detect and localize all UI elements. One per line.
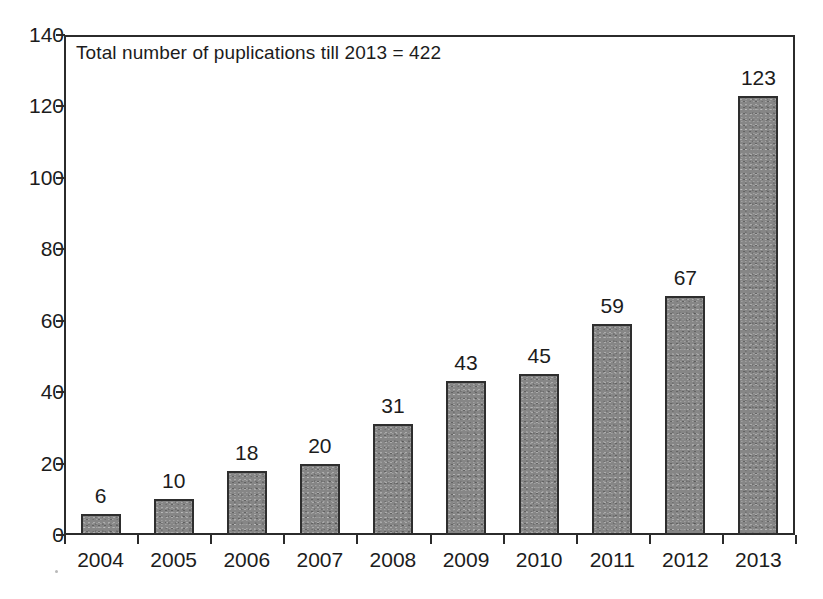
x-axis-tick-mark — [722, 535, 724, 544]
bar-chart-figure: 020406080100120140 Total number of pupli… — [0, 0, 823, 599]
x-axis-tick-label: 2005 — [150, 548, 197, 572]
bar-value-label: 43 — [454, 351, 477, 375]
x-axis-tick-mark — [649, 535, 651, 544]
x-axis-tick-mark — [503, 535, 505, 544]
bar-value-label: 10 — [162, 469, 185, 493]
x-axis-tick-label: 2004 — [77, 548, 124, 572]
bar-value-label: 18 — [235, 441, 258, 465]
bar — [738, 96, 778, 535]
bar-value-label: 59 — [601, 294, 624, 318]
bar-value-label: 6 — [95, 484, 107, 508]
bar-value-label: 67 — [674, 266, 697, 290]
bar — [446, 381, 486, 535]
x-axis-tick-label: 2007 — [296, 548, 343, 572]
x-axis-tick-mark — [356, 535, 358, 544]
x-axis-tick-mark — [283, 535, 285, 544]
bar — [227, 471, 267, 535]
x-axis-tick-label: 2010 — [516, 548, 563, 572]
x-axis-tick-label: 2009 — [443, 548, 490, 572]
x-axis-tick-mark — [64, 535, 66, 544]
bar — [592, 324, 632, 535]
bar-value-label: 20 — [308, 434, 331, 458]
x-axis-tick-mark — [430, 535, 432, 544]
bar-value-label: 123 — [741, 66, 776, 90]
x-axis-tick-label: 2012 — [662, 548, 709, 572]
bar — [373, 424, 413, 535]
x-axis-tick-label: 2008 — [370, 548, 417, 572]
x-axis-tick-mark — [795, 535, 797, 544]
x-axis-tick-label: 2013 — [735, 548, 782, 572]
bars-layer: 61018203143455967123 — [0, 0, 823, 535]
x-axis-tick-mark — [576, 535, 578, 544]
bar — [300, 464, 340, 535]
scan-artifact-speck — [55, 570, 58, 573]
x-axis-tick-label: 2006 — [223, 548, 270, 572]
x-axis-tick-mark — [210, 535, 212, 544]
x-axis-tick-mark — [137, 535, 139, 544]
bar — [154, 499, 194, 535]
bar-value-label: 31 — [381, 394, 404, 418]
x-axis-tick-label: 2011 — [590, 548, 635, 572]
bar-value-label: 45 — [527, 344, 550, 368]
bar — [81, 514, 121, 535]
bar — [519, 374, 559, 535]
bar — [665, 296, 705, 535]
